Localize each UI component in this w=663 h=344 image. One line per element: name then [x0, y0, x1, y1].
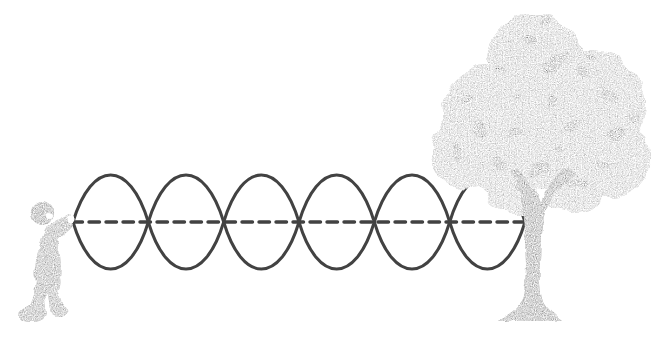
leaf-spot: [515, 93, 523, 99]
leaf-spot: [587, 54, 597, 62]
tree-foliage: [432, 14, 650, 212]
leaf-spot: [577, 70, 589, 78]
child-head: [28, 198, 56, 228]
leaf-spot: [570, 179, 584, 189]
leaf-spot: [629, 116, 639, 124]
tree: [432, 14, 650, 321]
leaf-spot: [554, 146, 562, 152]
leaf-spot: [547, 95, 557, 111]
figure: [0, 0, 663, 344]
leaf-spot: [608, 129, 624, 139]
child-body: [19, 214, 72, 322]
leaf-spot: [495, 66, 505, 74]
standing-wave-figure: [0, 0, 663, 344]
leaf-spot: [508, 130, 520, 138]
hand-highlight: [68, 216, 75, 223]
leaf-spot: [597, 163, 609, 171]
face-highlight: [46, 213, 52, 219]
leaf-spot: [450, 142, 462, 158]
child-figure: [19, 198, 74, 322]
